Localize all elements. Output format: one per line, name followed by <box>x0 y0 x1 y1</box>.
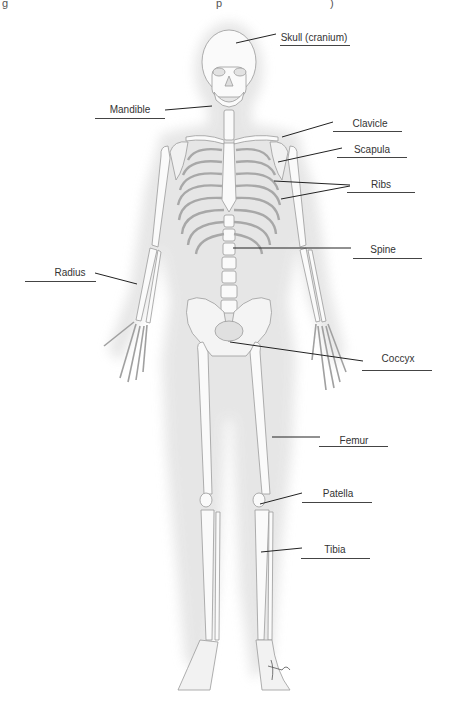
answer-line-spine <box>353 258 422 259</box>
patella <box>253 493 265 507</box>
title-fragment: p <box>216 0 222 6</box>
label-patella: Patella <box>323 488 354 500</box>
leader-line-clavicle <box>282 122 333 137</box>
answer-line-ribs <box>347 192 415 193</box>
label-coccyx: Coccyx <box>382 353 415 365</box>
label-skull: Skull (cranium) <box>281 32 348 44</box>
label-ribs: Ribs <box>371 179 391 191</box>
leader-line-radius <box>95 273 137 284</box>
label-radius: Radius <box>54 267 85 279</box>
answer-line-coccyx <box>362 370 432 371</box>
label-tibia: Tibia <box>324 544 345 556</box>
answer-line-tibia <box>301 558 370 559</box>
answer-line-scapula <box>337 157 407 158</box>
answer-line-clavicle <box>333 131 402 132</box>
title-fragment: g <box>2 0 8 6</box>
label-clavicle: Clavicle <box>352 118 387 130</box>
answer-line-mandible <box>95 118 165 119</box>
title-fragment: ) <box>330 0 334 6</box>
answer-line-femur <box>319 446 388 447</box>
skeleton-diagram: g p ) Skull (cranium)MandibleClavicleSca… <box>0 0 455 708</box>
leader-line-mandible <box>165 106 212 110</box>
label-scapula: Scapula <box>354 144 390 156</box>
answer-line-skull <box>280 45 350 46</box>
label-spine: Spine <box>370 244 396 256</box>
answer-line-patella <box>302 502 372 503</box>
answer-line-radius <box>25 281 96 282</box>
label-mandible: Mandible <box>110 104 151 116</box>
